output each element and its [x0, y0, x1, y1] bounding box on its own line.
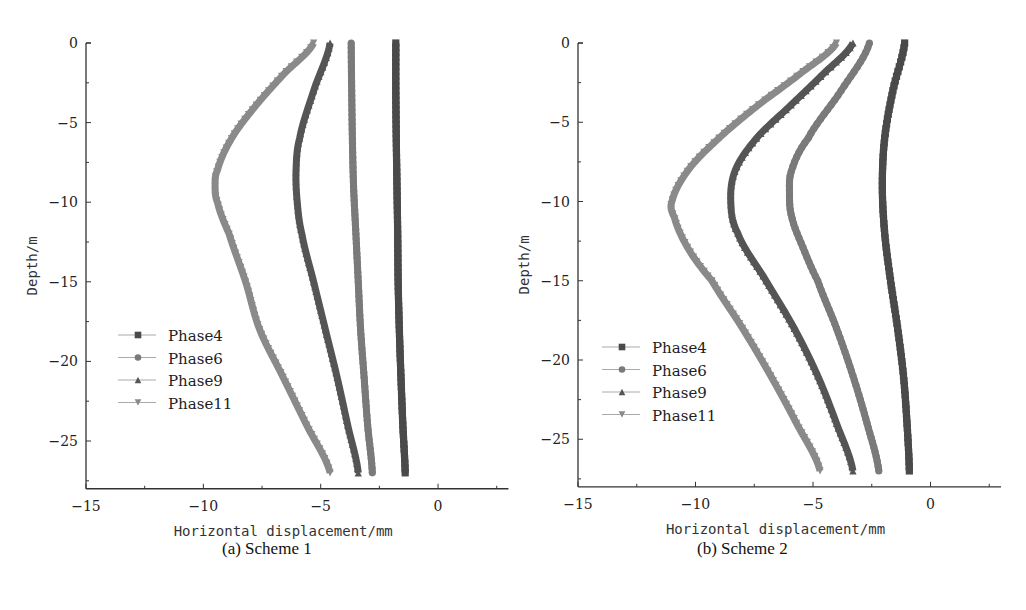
chart-panel-scheme-1: 0−5−10−15−20−25−15−10−50Horizontal displ… [0, 0, 513, 610]
x-tick-label: −5 [803, 496, 824, 512]
x-tick-label: 0 [434, 498, 443, 514]
legend-label: Phase4 [168, 327, 223, 345]
legend-label: Phase9 [652, 384, 707, 402]
x-axis-title: Horizontal displacement/mm [666, 521, 885, 537]
legend: Phase4Phase6Phase9Phase11 [602, 339, 716, 425]
y-tick-label: −15 [540, 273, 570, 289]
y-tick-label: −25 [48, 433, 78, 449]
y-tick-label: −20 [48, 353, 78, 369]
legend-label: Phase11 [652, 407, 716, 425]
chart-panel-scheme-2: 0−5−10−15−20−25−15−10−50Horizontal displ… [492, 0, 1005, 610]
caption-scheme-1: (a) Scheme 1 [222, 539, 312, 559]
y-tick-label: −10 [540, 194, 570, 210]
y-tick-label: −5 [549, 114, 570, 130]
x-tick-label: −10 [681, 496, 711, 512]
series-phase4 [879, 39, 913, 474]
y-tick-label: −10 [48, 194, 78, 210]
caption-scheme-2: (b) Scheme 2 [697, 539, 788, 559]
x-tick-label: −10 [189, 498, 219, 514]
plot-scheme-2: 0−5−10−15−20−25−15−10−50Horizontal displ… [492, 0, 1026, 610]
y-tick-label: −5 [57, 115, 78, 131]
series-phase4 [392, 39, 409, 476]
legend-label: Phase9 [168, 372, 223, 390]
x-tick-label: −15 [71, 498, 101, 514]
series-group [211, 39, 408, 476]
x-tick-label: −15 [563, 496, 593, 512]
legend-label: Phase6 [652, 362, 707, 380]
y-axis-title: Depth/m [24, 236, 40, 295]
legend-item-phase9: Phase9 [118, 372, 223, 390]
legend-label: Phase6 [168, 350, 223, 368]
legend-label: Phase4 [652, 339, 707, 357]
axes: 0−5−10−15−20−25−15−10−50 [540, 35, 1001, 512]
y-tick-label: 0 [69, 35, 78, 51]
legend-item-phase6: Phase6 [118, 350, 223, 368]
x-tick-label: −5 [310, 498, 331, 514]
legend-item-phase9: Phase9 [602, 384, 707, 402]
legend-item-phase4: Phase4 [602, 339, 707, 357]
y-tick-label: −25 [540, 431, 570, 447]
plot-scheme-1: 0−5−10−15−20−25−15−10−50Horizontal displ… [0, 0, 513, 610]
y-axis-title: Depth/m [516, 235, 532, 294]
x-tick-label: 0 [926, 496, 935, 512]
axes: 0−5−10−15−20−25−15−10−50 [48, 35, 508, 514]
legend-item-phase4: Phase4 [118, 327, 223, 345]
y-tick-label: −15 [48, 274, 78, 290]
legend-item-phase6: Phase6 [602, 362, 707, 380]
series-phase6 [348, 39, 376, 476]
y-tick-label: −20 [540, 352, 570, 368]
legend-label: Phase11 [168, 395, 232, 413]
legend-item-phase11: Phase11 [602, 407, 716, 425]
x-axis-title: Horizontal displacement/mm [174, 523, 393, 539]
legend: Phase4Phase6Phase9Phase11 [118, 327, 232, 413]
legend-item-phase11: Phase11 [118, 395, 232, 413]
y-tick-label: 0 [561, 35, 570, 51]
